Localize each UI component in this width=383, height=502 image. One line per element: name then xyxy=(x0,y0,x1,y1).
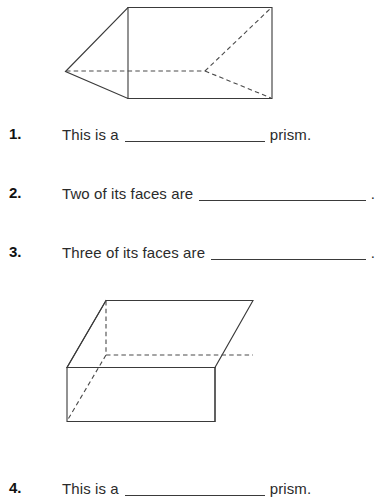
question-2: 2. Two of its faces are . xyxy=(0,183,383,209)
triangular-prism-drawing xyxy=(0,0,383,110)
question-1-number: 1. xyxy=(9,124,39,144)
triangular-prism-figure xyxy=(0,0,383,110)
question-4-body: This is a prism . xyxy=(62,478,375,500)
question-3: 3. Three of its faces are . xyxy=(0,242,383,268)
rectangular-prism-figure xyxy=(0,285,383,430)
question-2-number: 2. xyxy=(9,183,39,203)
question-3-number: 3. xyxy=(9,242,39,262)
box-hidden-bottom-left-oblique-edge xyxy=(67,355,106,421)
question-1-period: . xyxy=(307,125,311,145)
question-3-text: Three of its faces are xyxy=(62,243,205,263)
question-4-number: 4. xyxy=(9,478,39,498)
question-1-text: This is a xyxy=(62,125,119,145)
question-4-tail: prism xyxy=(270,479,307,499)
question-3-body: Three of its faces are . xyxy=(62,242,375,264)
question-4-period: . xyxy=(307,479,311,499)
question-1-answer-blank[interactable] xyxy=(125,141,265,142)
question-3-period: . xyxy=(371,243,375,263)
question-2-body: Two of its faces are . xyxy=(62,183,375,205)
question-1-tail: prism xyxy=(270,125,307,145)
question-3-answer-blank[interactable] xyxy=(211,259,366,260)
rectangular-prism-drawing xyxy=(0,285,383,430)
question-2-answer-blank[interactable] xyxy=(199,200,365,201)
question-1-body: This is a prism . xyxy=(62,124,375,146)
question-2-text: Two of its faces are xyxy=(62,184,193,204)
question-1: 1. This is a prism . xyxy=(0,124,383,150)
prism-outline xyxy=(66,8,273,99)
box-left-oblique-edge xyxy=(67,301,106,368)
prism-hidden-upper-edge xyxy=(205,8,271,71)
worksheet-page: 1. This is a prism . 2. Two of its faces… xyxy=(0,0,383,502)
question-4-text: This is a xyxy=(62,479,119,499)
prism-hidden-lower-edge xyxy=(205,71,271,98)
question-4-answer-blank[interactable] xyxy=(125,495,265,496)
question-4: 4. This is a prism . xyxy=(0,478,383,502)
question-2-period: . xyxy=(371,184,375,204)
